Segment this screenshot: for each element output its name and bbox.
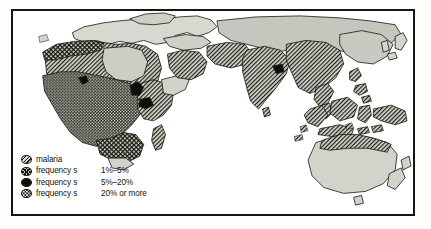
legend-value-frequency-20-plus: 20% or more bbox=[101, 188, 147, 199]
legend-label-frequency-1-5: frequency s bbox=[36, 165, 77, 176]
legend-value-frequency-1-5: 1%–5% bbox=[101, 165, 129, 176]
legend-label-malaria: malaria bbox=[36, 154, 62, 165]
map-legend: malaria frequency s 1%–5% frequency s 5%… bbox=[21, 154, 211, 200]
cross-hatch-swatch-icon bbox=[21, 167, 32, 176]
region-tasmania bbox=[354, 195, 364, 205]
solid-black-swatch-icon bbox=[21, 178, 32, 187]
legend-label-frequency-5-20: frequency s bbox=[36, 177, 77, 188]
figure-page: malaria frequency s 1%–5% frequency s 5%… bbox=[0, 0, 431, 229]
legend-label-frequency-20-plus: frequency s bbox=[36, 188, 77, 199]
legend-row-frequency-20-plus: frequency s 20% or more bbox=[21, 188, 211, 199]
legend-value-frequency-5-20: 5%–20% bbox=[101, 177, 133, 188]
diagonal-hatch-swatch-icon bbox=[21, 155, 32, 164]
map-frame: malaria frequency s 1%–5% frequency s 5%… bbox=[11, 9, 415, 216]
stipple-swatch-icon bbox=[21, 189, 32, 198]
legend-row-frequency-5-20: frequency s 5%–20% bbox=[21, 177, 211, 188]
legend-row-frequency-1-5: frequency s 1%–5% bbox=[21, 165, 211, 176]
legend-row-malaria: malaria bbox=[21, 154, 211, 165]
